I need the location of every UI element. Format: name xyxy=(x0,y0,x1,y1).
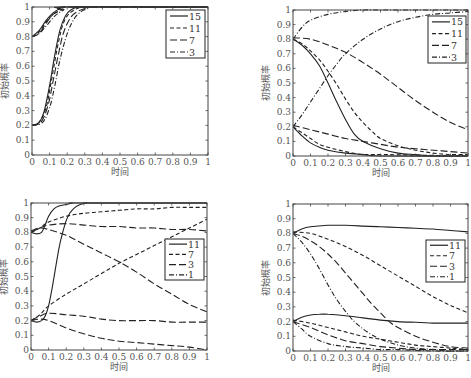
y-tick-label: 0.8 xyxy=(277,34,292,44)
y-axis-label: 初始概率 xyxy=(0,63,10,99)
y-tick-label: 0.1 xyxy=(277,331,291,341)
legend-label-7: 7 xyxy=(189,35,195,46)
x-tick-label: 0.3 xyxy=(338,158,353,168)
x-tick-label: 0.6 xyxy=(130,157,145,167)
legend-label-11: 11 xyxy=(449,240,461,251)
x-tick-label: 0.7 xyxy=(148,157,163,167)
x-tick-label: 0.8 xyxy=(165,352,180,362)
chart-panel-top-right: 00.10.20.30.40.50.60.70.80.9100.10.20.30… xyxy=(260,5,471,178)
series-line-7 xyxy=(31,207,207,232)
x-axis-label: 时间 xyxy=(372,167,390,178)
x-tick-label: 0.4 xyxy=(356,158,371,168)
y-tick-label: 0.4 xyxy=(15,286,30,296)
y-tick-label: 0.2 xyxy=(277,122,291,132)
y-axis-label: 初始概率 xyxy=(0,259,9,295)
y-tick-label: 0.3 xyxy=(277,302,292,312)
y-tick-label: 0 xyxy=(285,346,291,356)
y-tick-label: 0.5 xyxy=(277,273,292,283)
x-tick-label: 0.5 xyxy=(373,353,388,363)
x-tick-label: 0.5 xyxy=(373,158,388,168)
y-tick-label: 0.2 xyxy=(15,316,29,326)
y-tick-label: 0.9 xyxy=(16,17,31,27)
y-tick-label: 0.3 xyxy=(277,107,292,117)
y-tick-label: 0.3 xyxy=(15,301,30,311)
x-tick-label: 0.4 xyxy=(356,353,371,363)
y-tick-label: 1 xyxy=(285,5,291,15)
series-line-15 xyxy=(293,127,468,156)
chart-panel-top-left: 00.10.20.30.40.50.60.70.80.9100.10.20.30… xyxy=(0,2,211,177)
x-tick-label: 0 xyxy=(290,158,296,168)
x-tick-label: 0.9 xyxy=(183,157,198,167)
y-tick-label: 0.1 xyxy=(15,330,29,340)
series-line-3 xyxy=(293,322,468,350)
legend-label-1: 1 xyxy=(449,271,455,282)
y-tick-label: 0.2 xyxy=(277,317,291,327)
y-tick-label: 0.7 xyxy=(277,243,292,253)
x-tick-label: 1 xyxy=(205,157,211,167)
x-tick-label: 0.8 xyxy=(426,158,441,168)
series-line-11 xyxy=(293,314,468,323)
x-tick-label: 0.3 xyxy=(338,353,353,363)
x-tick-label: 0 xyxy=(290,353,296,363)
y-tick-label: 0.9 xyxy=(277,20,292,30)
series-line-3 xyxy=(31,313,207,322)
y-tick-label: 0.6 xyxy=(15,257,30,267)
y-tick-label: 0.8 xyxy=(16,32,31,42)
y-tick-label: 0.5 xyxy=(277,78,292,88)
y-tick-label: 0.5 xyxy=(15,272,30,282)
x-tick-label: 0.7 xyxy=(408,158,423,168)
series-line-11 xyxy=(293,225,468,233)
x-tick-label: 0.7 xyxy=(408,353,423,363)
series-line-3 xyxy=(31,224,207,233)
legend: 11731 xyxy=(426,240,465,283)
y-tick-label: 0.2 xyxy=(16,120,30,130)
x-tick-label: 0 xyxy=(28,352,34,362)
x-tick-label: 1 xyxy=(465,158,471,168)
x-axis-label: 时间 xyxy=(110,361,128,372)
x-tick-label: 0.8 xyxy=(166,157,181,167)
x-tick-label: 0.1 xyxy=(303,353,317,363)
y-tick-label: 0 xyxy=(24,150,30,160)
x-tick-label: 0.3 xyxy=(78,157,93,167)
x-tick-label: 0.1 xyxy=(42,157,56,167)
y-tick-label: 0.7 xyxy=(16,46,31,56)
x-tick-label: 0.6 xyxy=(129,352,144,362)
x-tick-label: 0.5 xyxy=(112,352,127,362)
x-tick-label: 0.4 xyxy=(94,352,109,362)
series-line-11 xyxy=(293,127,468,156)
legend-label-3: 3 xyxy=(449,261,455,272)
series-line-1 xyxy=(31,319,207,350)
y-tick-label: 0.9 xyxy=(15,213,30,223)
x-tick-label: 0.5 xyxy=(113,157,128,167)
x-tick-label: 0.7 xyxy=(147,352,162,362)
y-tick-label: 0.1 xyxy=(16,135,30,145)
y-tick-label: 0.4 xyxy=(277,287,292,297)
y-tick-label: 1 xyxy=(24,2,30,12)
x-axis-label: 时间 xyxy=(111,166,129,177)
legend-label-7: 7 xyxy=(449,250,455,261)
x-tick-label: 0.9 xyxy=(443,158,458,168)
y-tick-label: 0.1 xyxy=(277,136,291,146)
x-tick-label: 0.1 xyxy=(303,158,317,168)
x-tick-label: 0.9 xyxy=(182,352,197,362)
y-tick-label: 0.4 xyxy=(277,93,292,103)
legend-label-1: 1 xyxy=(188,269,194,280)
x-tick-label: 0.6 xyxy=(391,158,406,168)
x-tick-label: 1 xyxy=(465,353,471,363)
x-tick-label: 0.6 xyxy=(391,353,406,363)
legend-label-3: 3 xyxy=(189,47,195,58)
x-tick-label: 0.2 xyxy=(60,157,74,167)
x-tick-label: 0.1 xyxy=(41,352,55,362)
legend-label-11: 11 xyxy=(451,28,463,39)
x-tick-label: 0.2 xyxy=(59,352,73,362)
y-tick-label: 0 xyxy=(23,345,29,355)
legend-label-3: 3 xyxy=(451,52,457,63)
x-tick-label: 0.4 xyxy=(95,157,110,167)
legend-label-7: 7 xyxy=(451,40,457,51)
y-tick-label: 0.4 xyxy=(16,91,31,101)
x-tick-label: 1 xyxy=(204,352,210,362)
x-tick-label: 0 xyxy=(29,157,35,167)
y-tick-label: 1 xyxy=(23,198,29,208)
x-tick-label: 0.9 xyxy=(443,353,458,363)
y-tick-label: 0.8 xyxy=(15,227,30,237)
